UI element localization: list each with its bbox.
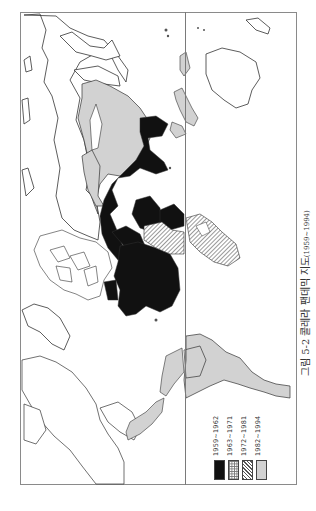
legend-label: 1972~1981 [240, 416, 248, 456]
legend-swatch-light-gray [256, 460, 267, 480]
central-america [126, 348, 184, 440]
equator-divider [185, 12, 186, 485]
eastern-north-america [22, 356, 140, 484]
legend: 1959~1962 1963~1971 1972~1981 1982~1994 [214, 400, 276, 480]
legend-item-1972-1981: 1972~1981 [242, 400, 254, 480]
caption-years: (1959~1994) [303, 210, 311, 257]
legend-label: 1982~1994 [254, 416, 262, 456]
legend-label: 1963~1971 [226, 416, 234, 456]
australia [206, 18, 270, 108]
legend-item-1982-1994: 1982~1994 [256, 400, 268, 480]
legend-swatch-solid-black [214, 460, 225, 480]
legend-item-1959-1962: 1959~1962 [214, 400, 226, 480]
japan-se-asia [170, 52, 198, 138]
arctic-islands [22, 56, 34, 196]
figure-caption: 그림 5-2 콜레라 팬데믹 지도(1959~1994) [297, 376, 298, 377]
caption-main: 그림 5-2 콜레라 팬데믹 지도 [300, 257, 311, 376]
south-america [184, 334, 290, 398]
legend-swatch-diagonal-hatch [242, 460, 253, 480]
greenland [22, 304, 70, 350]
legend-item-1963-1971: 1963~1971 [228, 400, 240, 480]
legend-swatch-cross-hatch [228, 460, 239, 480]
europe [34, 230, 112, 300]
legend-label: 1959~1962 [212, 416, 220, 456]
